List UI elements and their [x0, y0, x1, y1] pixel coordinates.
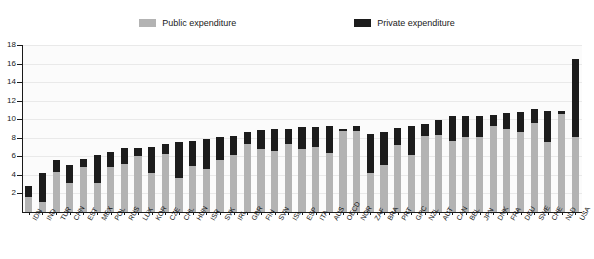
bar-segment-public[interactable] [257, 149, 264, 212]
bar-group[interactable] [558, 111, 565, 212]
bar-segment-public[interactable] [558, 114, 565, 212]
bar-group[interactable] [175, 142, 182, 212]
bar-segment-private[interactable] [476, 116, 483, 137]
bar-group[interactable] [257, 130, 264, 212]
bar-segment-private[interactable] [572, 59, 579, 137]
bar-group[interactable] [380, 132, 387, 212]
bar-segment-private[interactable] [175, 142, 182, 178]
bar-group[interactable] [421, 124, 428, 212]
bar-segment-public[interactable] [134, 156, 141, 212]
bar-group[interactable] [353, 126, 360, 212]
bar-group[interactable] [394, 128, 401, 212]
bar-segment-private[interactable] [380, 132, 387, 164]
bar-segment-public[interactable] [189, 166, 196, 212]
bar-segment-public[interactable] [326, 153, 333, 212]
bar-segment-private[interactable] [25, 186, 32, 197]
bar-segment-private[interactable] [39, 173, 46, 202]
bar-segment-private[interactable] [544, 111, 551, 142]
bar-group[interactable] [339, 129, 346, 212]
bar-segment-private[interactable] [298, 127, 305, 149]
bar-segment-private[interactable] [53, 160, 60, 172]
bar-segment-public[interactable] [531, 123, 538, 212]
bar-group[interactable] [298, 127, 305, 212]
bar-group[interactable] [503, 113, 510, 212]
bar-group[interactable] [408, 126, 415, 212]
bar-segment-public[interactable] [312, 147, 319, 212]
bar-segment-private[interactable] [162, 144, 169, 154]
bar-segment-public[interactable] [449, 141, 456, 212]
bar-segment-private[interactable] [462, 116, 469, 137]
bar-segment-private[interactable] [230, 136, 237, 155]
bar-segment-private[interactable] [394, 128, 401, 146]
bar-segment-private[interactable] [107, 152, 114, 167]
bar-segment-public[interactable] [435, 135, 442, 212]
bar-group[interactable] [312, 127, 319, 212]
bar-group[interactable] [435, 120, 442, 212]
bar-segment-private[interactable] [408, 126, 415, 156]
bar-segment-private[interactable] [94, 155, 101, 183]
bar-group[interactable] [367, 134, 374, 212]
bar-group[interactable] [121, 148, 128, 212]
bar-group[interactable] [449, 116, 456, 212]
bar-segment-public[interactable] [544, 142, 551, 213]
bar-group[interactable] [285, 129, 292, 212]
bar-segment-public[interactable] [121, 164, 128, 212]
bar-segment-public[interactable] [408, 155, 415, 212]
bar-segment-private[interactable] [312, 127, 319, 147]
bar-segment-private[interactable] [216, 137, 223, 160]
bar-segment-private[interactable] [134, 148, 141, 156]
bar-segment-private[interactable] [326, 126, 333, 153]
bar-segment-public[interactable] [25, 197, 32, 212]
bar-group[interactable] [162, 144, 169, 212]
bar-group[interactable] [572, 59, 579, 212]
bar-group[interactable] [271, 129, 278, 212]
bar-segment-private[interactable] [449, 116, 456, 140]
bar-group[interactable] [531, 109, 538, 212]
bar-segment-private[interactable] [503, 113, 510, 129]
bar-segment-public[interactable] [421, 136, 428, 212]
bar-group[interactable] [134, 148, 141, 212]
bar-segment-public[interactable] [53, 172, 60, 212]
bar-segment-public[interactable] [339, 131, 346, 212]
bar-segment-private[interactable] [271, 129, 278, 151]
bar-segment-private[interactable] [244, 132, 251, 144]
bar-group[interactable] [107, 152, 114, 212]
bar-group[interactable] [80, 159, 87, 212]
bar-segment-public[interactable] [490, 126, 497, 212]
bar-segment-public[interactable] [162, 154, 169, 212]
bar-segment-private[interactable] [517, 112, 524, 132]
bar-group[interactable] [490, 115, 497, 212]
bar-segment-public[interactable] [503, 129, 510, 213]
bar-segment-private[interactable] [367, 134, 374, 173]
bar-segment-public[interactable] [572, 137, 579, 212]
bar-segment-private[interactable] [435, 120, 442, 135]
bar-group[interactable] [66, 165, 73, 212]
bar-segment-public[interactable] [230, 155, 237, 212]
bar-segment-public[interactable] [285, 144, 292, 212]
bar-group[interactable] [25, 186, 32, 212]
bar-segment-private[interactable] [421, 124, 428, 136]
bar-segment-private[interactable] [490, 115, 497, 126]
bar-segment-public[interactable] [517, 132, 524, 212]
bar-group[interactable] [244, 132, 251, 212]
bar-group[interactable] [53, 160, 60, 212]
bar-group[interactable] [216, 137, 223, 212]
bar-segment-private[interactable] [531, 109, 538, 123]
bar-group[interactable] [544, 111, 551, 212]
bar-segment-private[interactable] [121, 148, 128, 164]
bar-segment-public[interactable] [380, 165, 387, 212]
bar-segment-private[interactable] [80, 159, 87, 166]
bar-segment-private[interactable] [257, 130, 264, 149]
bar-group[interactable] [148, 147, 155, 212]
bar-segment-public[interactable] [244, 144, 251, 212]
bar-segment-public[interactable] [298, 149, 305, 212]
bar-segment-public[interactable] [462, 137, 469, 212]
bar-group[interactable] [517, 112, 524, 212]
bar-group[interactable] [230, 136, 237, 212]
bar-group[interactable] [476, 116, 483, 212]
bar-group[interactable] [39, 173, 46, 212]
bar-group[interactable] [189, 141, 196, 212]
bar-segment-private[interactable] [66, 165, 73, 184]
bar-segment-private[interactable] [285, 129, 292, 145]
bar-segment-private[interactable] [148, 147, 155, 173]
